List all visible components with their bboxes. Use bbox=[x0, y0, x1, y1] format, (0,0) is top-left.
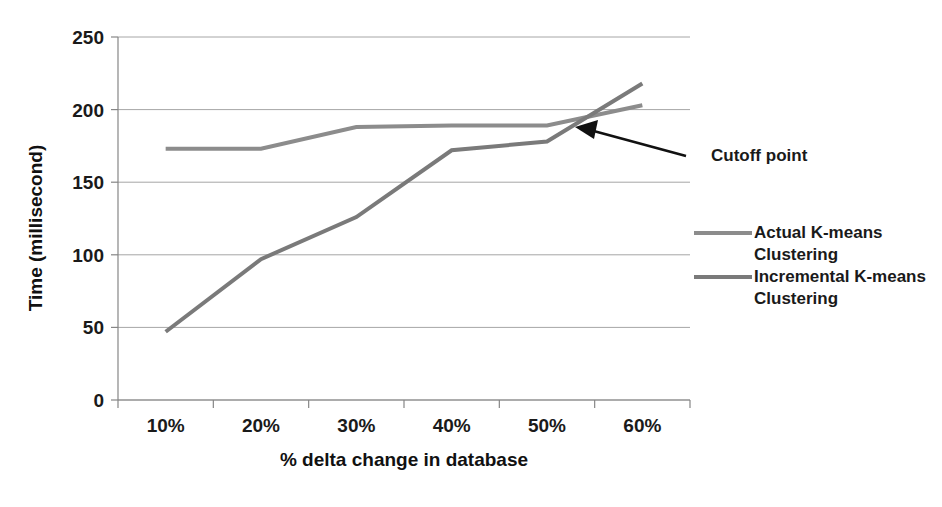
y-tick-label-200: 200 bbox=[72, 100, 104, 121]
x-tick-label-60%: 60% bbox=[623, 415, 661, 436]
y-tick-label-100: 100 bbox=[72, 245, 104, 266]
y-tick-label-150: 150 bbox=[72, 172, 104, 193]
x-tick-label-40%: 40% bbox=[433, 415, 471, 436]
x-tick-label-30%: 30% bbox=[337, 415, 375, 436]
x-tick-label-10%: 10% bbox=[147, 415, 185, 436]
y-axis-title: Time (millisecond) bbox=[25, 145, 46, 311]
legend-label-0-line2: Clustering bbox=[754, 245, 838, 264]
line-chart: 050100150200250 10%20%30%40%50%60% Time … bbox=[0, 0, 942, 507]
chart-container: 050100150200250 10%20%30%40%50%60% Time … bbox=[0, 0, 942, 507]
x-axis-title: % delta change in database bbox=[280, 449, 528, 470]
y-tick-label-250: 250 bbox=[72, 27, 104, 48]
y-tick-label-0: 0 bbox=[93, 390, 104, 411]
legend-label-1: Incremental K-means bbox=[754, 267, 926, 286]
cutoff-point-label: Cutoff point bbox=[711, 146, 808, 165]
legend-label-1-line2: Clustering bbox=[754, 289, 838, 308]
legend-label-0: Actual K-means bbox=[754, 223, 882, 242]
y-tick-label-50: 50 bbox=[83, 317, 104, 338]
x-tick-label-20%: 20% bbox=[242, 415, 280, 436]
x-tick-label-50%: 50% bbox=[528, 415, 566, 436]
